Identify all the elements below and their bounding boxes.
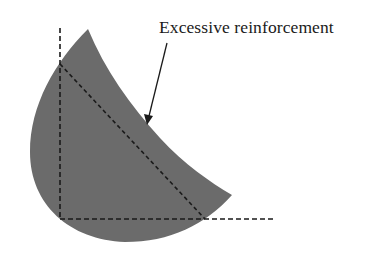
diagram-canvas: Excessive reinforcement (0, 0, 389, 253)
annotation-arrow (149, 43, 167, 116)
annotation-label: Excessive reinforcement (159, 17, 334, 38)
